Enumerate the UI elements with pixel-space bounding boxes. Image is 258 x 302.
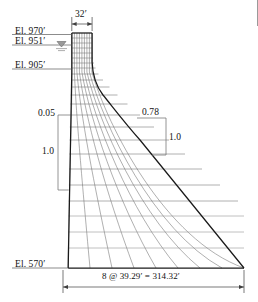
mesh-row-lines-body [68,74,244,248]
dimension-arrow-left-icon [63,285,68,289]
dam-upstream-face [68,33,72,268]
label-upstream-slope-run: 0.05 [38,108,55,118]
label-el-970: El. 970′ [15,26,45,36]
dimension-arrow-left-icon [72,22,77,26]
dimension-arrow-right-icon [239,285,244,289]
page-edge-rule [257,0,258,26]
label-el-570: El. 570′ [15,259,45,269]
figure-canvas: El. 970′ El. 951′ El. 905′ El. 570′ 32′ … [0,0,258,302]
downstream-slope-indicator [137,118,166,155]
label-downstream-slope-rise: 1.0 [169,132,181,142]
dam-downstream-face [92,33,244,268]
label-base-dimension: 8 @ 39.29′ = 314.32′ [102,271,180,281]
label-crest-width: 32′ [75,9,87,19]
upstream-slope-indicator [58,115,70,190]
label-downstream-slope-run: 0.78 [142,107,159,117]
dimension-arrow-right-icon [87,22,92,26]
crest-width-dimension [72,17,92,31]
water-surface-triangle-icon [56,42,67,51]
label-el-905: El. 905′ [15,60,45,70]
label-el-951: El. 951′ [15,36,45,46]
label-upstream-slope-rise: 1.0 [42,146,54,156]
finite-element-mesh [68,33,244,268]
